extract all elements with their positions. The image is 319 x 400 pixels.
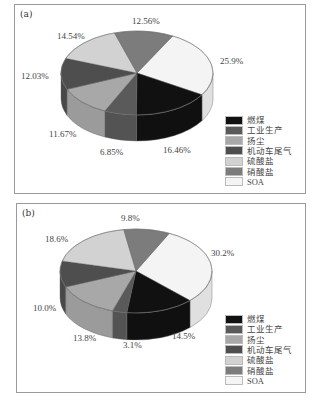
percent-label: 14.54% <box>57 31 85 41</box>
percent-label: 6.85% <box>100 147 123 157</box>
legend-swatch <box>225 157 243 166</box>
legend-item: 机动车尾气 <box>225 345 293 355</box>
legend-swatch <box>225 366 243 375</box>
legend-label: 硝酸盐 <box>247 167 274 177</box>
legend-swatch <box>225 325 243 334</box>
legend-b: 燃煤工业生产扬尘机动车尾气硫酸盐硝酸盐SOA <box>225 314 293 386</box>
percent-label: 12.03% <box>21 71 49 81</box>
legend-item: 燃煤 <box>225 314 293 324</box>
legend-label: 扬尘 <box>247 335 265 345</box>
legend-item: 硝酸盐 <box>225 166 293 176</box>
legend-label: 硫酸盐 <box>247 355 274 365</box>
legend-label: 硝酸盐 <box>247 366 274 376</box>
legend-swatch <box>225 136 243 145</box>
pie-panel-b: (b) 14.5%3.1%13.8%10.0%18.6%9.8%30.2% 燃煤… <box>16 203 306 393</box>
legend-label: 燃煤 <box>247 115 265 125</box>
percent-label: 12.56% <box>132 16 160 26</box>
percent-label: 13.8% <box>73 333 96 343</box>
percent-label: 14.5% <box>172 331 195 341</box>
legend-label: 工业生产 <box>247 125 283 135</box>
legend-item: 工业生产 <box>225 324 293 334</box>
legend-swatch <box>225 356 243 365</box>
percent-label: 25.9% <box>220 56 243 66</box>
legend-swatch <box>225 177 243 186</box>
legend-label: 扬尘 <box>247 136 265 146</box>
legend-swatch <box>225 315 243 324</box>
legend-item: 硫酸盐 <box>225 355 293 365</box>
legend-item: SOA <box>225 177 293 187</box>
percent-label: 9.8% <box>121 213 140 223</box>
legend-item: 扬尘 <box>225 136 293 146</box>
legend-swatch <box>225 116 243 125</box>
legend-swatch <box>225 376 243 385</box>
legend-label: 工业生产 <box>247 324 283 334</box>
legend-item: 燃煤 <box>225 115 293 125</box>
legend-label: 硫酸盐 <box>247 156 274 166</box>
legend-label: SOA <box>247 177 264 187</box>
percent-label: 3.1% <box>123 340 142 350</box>
legend-item: 工业生产 <box>225 125 293 135</box>
legend-swatch <box>225 167 243 176</box>
percent-label: 11.67% <box>49 129 76 139</box>
legend-label: 燃煤 <box>247 314 265 324</box>
pie-panel-a: (a) 16.46%6.85%11.67%12.03%14.54%12.56%2… <box>14 4 306 194</box>
pie-top <box>61 31 213 115</box>
legend-item: SOA <box>225 376 293 386</box>
legend-item: 扬尘 <box>225 335 293 345</box>
percent-label: 10.0% <box>33 303 56 313</box>
pie-top <box>60 229 212 313</box>
legend-swatch <box>225 146 243 155</box>
legend-swatch <box>225 345 243 354</box>
legend-label: 机动车尾气 <box>247 146 292 156</box>
legend-item: 机动车尾气 <box>225 146 293 156</box>
percent-label: 18.6% <box>45 234 68 244</box>
percent-label: 30.2% <box>211 248 234 258</box>
legend-a: 燃煤工业生产扬尘机动车尾气硫酸盐硝酸盐SOA <box>225 115 293 187</box>
legend-label: 机动车尾气 <box>247 345 292 355</box>
legend-swatch <box>225 126 243 135</box>
percent-label: 16.46% <box>163 145 191 155</box>
legend-label: SOA <box>247 376 264 386</box>
legend-swatch <box>225 335 243 344</box>
legend-item: 硫酸盐 <box>225 156 293 166</box>
legend-item: 硝酸盐 <box>225 365 293 375</box>
